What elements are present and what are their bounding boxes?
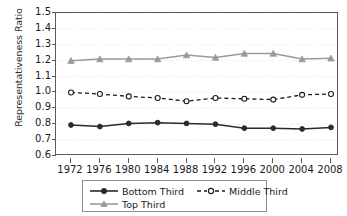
x-tick-label: 1976 bbox=[86, 164, 111, 175]
y-tick-label: 1.2 bbox=[35, 55, 51, 65]
chart-legend: Bottom Third Middle Third Top Third bbox=[82, 180, 267, 212]
data-point-marker bbox=[271, 97, 276, 102]
y-tick-label: 0.9 bbox=[35, 102, 51, 112]
x-axis-tick-labels: 1972197619801984198819921996200020042008 bbox=[55, 158, 338, 178]
data-point-marker bbox=[126, 121, 131, 126]
data-point-marker bbox=[300, 127, 305, 132]
x-tick-mark bbox=[70, 158, 71, 163]
x-tick-mark bbox=[186, 158, 187, 163]
y-tick-label: 1.4 bbox=[35, 23, 51, 33]
legend-item-bottom-third: Bottom Third bbox=[89, 184, 184, 198]
y-axis-tick-labels: 1.51.41.31.21.11.00.90.80.70.6 bbox=[17, 0, 51, 216]
data-point-marker bbox=[184, 121, 189, 126]
data-point-marker bbox=[126, 94, 131, 99]
y-tick-label: 1.3 bbox=[35, 39, 51, 49]
data-point-marker bbox=[213, 122, 218, 127]
x-tick-mark bbox=[301, 158, 302, 163]
data-point-marker bbox=[329, 92, 334, 97]
legend-item-middle-third: Middle Third bbox=[196, 184, 288, 198]
x-tick-label: 2008 bbox=[317, 164, 342, 175]
legend-label-middle-third: Middle Third bbox=[229, 186, 288, 197]
x-tick-label: 2000 bbox=[259, 164, 284, 175]
x-tick-mark bbox=[243, 158, 244, 163]
legend-sample-top-third bbox=[89, 198, 119, 210]
series-line bbox=[71, 123, 331, 129]
x-tick-mark bbox=[272, 158, 273, 163]
x-tick-mark bbox=[128, 158, 129, 163]
legend-sample-middle-third bbox=[196, 185, 226, 197]
y-tick-label: 0.8 bbox=[35, 118, 51, 128]
legend-label-bottom-third: Bottom Third bbox=[122, 186, 184, 197]
data-point-marker bbox=[97, 92, 102, 97]
legend-label-top-third: Top Third bbox=[122, 199, 165, 210]
data-point-marker bbox=[271, 126, 276, 131]
data-point-marker bbox=[155, 120, 160, 125]
x-tick-label: 1992 bbox=[202, 164, 227, 175]
x-tick-label: 1980 bbox=[115, 164, 140, 175]
chart-plot-svg bbox=[56, 13, 339, 156]
data-point-marker bbox=[69, 90, 74, 95]
data-point-marker bbox=[184, 99, 189, 104]
legend-item-top-third: Top Third bbox=[89, 197, 165, 211]
x-tick-mark bbox=[157, 158, 158, 163]
data-point-marker bbox=[329, 125, 334, 130]
chart-figure: Representativeness Ratio 1.51.41.31.21.1… bbox=[0, 0, 347, 216]
series-line bbox=[71, 54, 331, 61]
y-tick-label: 1.1 bbox=[35, 71, 51, 81]
data-point-marker bbox=[213, 96, 218, 101]
x-tick-mark bbox=[99, 158, 100, 163]
x-tick-mark bbox=[330, 158, 331, 163]
x-tick-mark bbox=[214, 158, 215, 163]
legend-row-2: Top Third bbox=[89, 197, 165, 211]
data-point-marker bbox=[242, 126, 247, 131]
y-tick-label: 1.0 bbox=[35, 86, 51, 96]
x-tick-label: 1988 bbox=[173, 164, 198, 175]
data-point-marker bbox=[69, 123, 74, 128]
legend-row-1: Bottom Third Middle Third bbox=[89, 184, 288, 198]
series-line bbox=[71, 92, 331, 101]
y-tick-label: 0.6 bbox=[35, 150, 51, 160]
data-point-marker bbox=[242, 96, 247, 101]
y-tick-label: 0.7 bbox=[35, 134, 51, 144]
x-tick-label: 1984 bbox=[144, 164, 169, 175]
plot-area bbox=[55, 12, 338, 155]
x-tick-label: 1996 bbox=[231, 164, 256, 175]
data-point-marker bbox=[300, 92, 305, 97]
data-point-marker bbox=[155, 96, 160, 101]
legend-sample-bottom-third bbox=[89, 185, 119, 197]
x-tick-label: 1972 bbox=[57, 164, 82, 175]
data-point-marker bbox=[97, 124, 102, 129]
x-tick-label: 2004 bbox=[288, 164, 313, 175]
y-tick-label: 1.5 bbox=[35, 7, 51, 17]
